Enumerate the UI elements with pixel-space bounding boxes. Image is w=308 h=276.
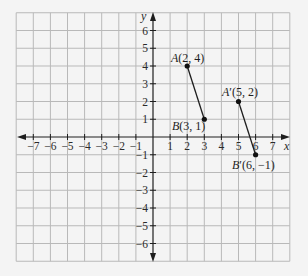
y-axis-up-arrow-icon bbox=[150, 12, 156, 21]
y-tick-label: −3 bbox=[136, 184, 148, 196]
x-tick-label: 5 bbox=[236, 140, 242, 152]
x-tick-label: 2 bbox=[184, 140, 190, 152]
x-tick-label: −3 bbox=[96, 140, 108, 152]
x-tick-label: −4 bbox=[78, 140, 90, 152]
point-label-b: B(3, 1) bbox=[172, 119, 205, 133]
x-tick-label: −5 bbox=[61, 140, 73, 152]
y-axis-down-arrow-icon bbox=[150, 253, 156, 262]
y-axis-label: y bbox=[140, 9, 147, 23]
y-tick-label: 5 bbox=[142, 42, 148, 54]
x-tick-label: −6 bbox=[44, 140, 56, 152]
y-tick-label: 6 bbox=[142, 25, 148, 37]
point-label-a-prime: A′(5, 2) bbox=[221, 85, 258, 99]
x-tick-label: −7 bbox=[27, 140, 39, 152]
y-tick-label: −5 bbox=[136, 220, 148, 232]
y-tick-label: −4 bbox=[136, 202, 148, 214]
coordinate-plane: x y −7−6−5−4−3−2−11234567654321−1−2−3−4−… bbox=[0, 0, 308, 276]
point-labels: A(2, 4) B(3, 1) A′(5, 2) B′(6, −1) bbox=[170, 51, 275, 172]
line-segment bbox=[187, 66, 204, 119]
y-tick-label: 1 bbox=[142, 113, 148, 125]
x-tick-label: 1 bbox=[167, 140, 173, 152]
point-label-b-prime: B′(6, −1) bbox=[232, 158, 275, 172]
y-tick-label: 4 bbox=[142, 60, 148, 72]
x-tick-label: 3 bbox=[201, 140, 207, 152]
x-tick-label: 7 bbox=[270, 140, 276, 152]
point-dot-icon bbox=[253, 152, 258, 157]
point-label-a: A(2, 4) bbox=[170, 51, 204, 65]
y-tick-label: −6 bbox=[136, 238, 148, 250]
x-axis-left-arrow-icon bbox=[17, 134, 26, 140]
y-tick-label: −2 bbox=[136, 167, 148, 179]
y-tick-label: 2 bbox=[142, 96, 148, 108]
y-tick-label: −1 bbox=[136, 149, 148, 161]
x-axis-label: x bbox=[283, 139, 290, 153]
point-dot-icon bbox=[236, 99, 241, 104]
y-tick-label: 3 bbox=[142, 78, 148, 90]
x-tick-label: 4 bbox=[219, 140, 225, 152]
x-tick-label: −2 bbox=[113, 140, 125, 152]
